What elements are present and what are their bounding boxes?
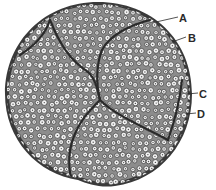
axon — [36, 4, 40, 8]
axon — [22, 179, 27, 184]
axon-core — [9, 19, 10, 20]
axon-core — [37, 154, 38, 155]
axon-core — [129, 56, 130, 57]
axon-core — [118, 141, 119, 142]
axon-core — [85, 154, 86, 155]
axon-core — [61, 148, 62, 149]
axon-core — [190, 116, 191, 117]
axon-core — [139, 17, 140, 18]
axon-core — [190, 12, 191, 13]
axon-core — [80, 11, 81, 12]
axon — [7, 36, 12, 41]
axon-core — [52, 180, 53, 181]
axon — [7, 145, 12, 150]
axon-core — [141, 103, 142, 104]
axon-core — [58, 50, 59, 51]
axon-core — [67, 18, 68, 19]
axon-core — [108, 136, 109, 137]
axon-core — [44, 102, 45, 103]
axon-core — [52, 154, 53, 155]
axon-core — [125, 175, 126, 176]
axon-core — [143, 109, 144, 110]
axon-core — [37, 128, 38, 129]
axon — [179, 29, 184, 34]
axon — [180, 160, 184, 164]
axon-core — [83, 162, 84, 163]
axon-core — [80, 18, 81, 19]
axon-core — [21, 91, 22, 92]
axon-core — [142, 5, 143, 6]
axon-core — [12, 76, 13, 77]
axon-core — [175, 32, 176, 33]
axon — [24, 159, 28, 163]
axon-core — [174, 56, 175, 57]
axon-core — [81, 117, 82, 118]
axon-core — [104, 130, 105, 131]
axon-core — [144, 11, 145, 12]
axon-core — [86, 123, 87, 124]
axon-core — [111, 18, 112, 19]
axon-core — [32, 24, 33, 25]
axon-core — [12, 110, 13, 111]
axon-core — [44, 57, 45, 58]
axon-core — [105, 123, 106, 124]
axon — [4, 29, 9, 34]
axon-core — [78, 84, 79, 85]
axon-core — [16, 116, 17, 117]
axon-core — [120, 64, 121, 65]
axon-core — [132, 18, 133, 19]
axon-core — [113, 71, 114, 72]
axon — [182, 172, 186, 176]
axon-core — [19, 77, 20, 78]
axon-core — [117, 102, 118, 103]
axon — [173, 153, 179, 159]
axon-core — [94, 167, 95, 168]
axon-core — [137, 115, 138, 116]
axon-core — [116, 52, 117, 53]
axon-core — [156, 102, 157, 103]
axon-core — [57, 110, 58, 111]
axon — [12, 147, 17, 152]
axon-core — [106, 142, 107, 143]
axon-core — [77, 58, 78, 59]
axon-core — [180, 182, 181, 183]
axon-core — [107, 149, 108, 150]
axon — [164, 180, 170, 186]
axon — [2, 134, 8, 140]
axon-core — [128, 30, 129, 31]
axon-core — [151, 168, 152, 169]
axon-core — [170, 174, 171, 175]
axon-core — [123, 162, 124, 163]
axon-core — [20, 122, 21, 123]
axon-core — [90, 102, 91, 103]
axon-core — [128, 161, 129, 162]
axon-core — [139, 143, 140, 144]
axon — [168, 161, 172, 165]
axon-core — [177, 168, 178, 169]
axon-core — [26, 25, 27, 26]
axon-core — [21, 17, 22, 18]
axon-core — [170, 13, 171, 14]
axon-core — [181, 77, 182, 78]
axon-core — [58, 25, 59, 26]
axon-core — [180, 128, 181, 129]
axon-core — [79, 169, 80, 170]
axon-core — [39, 110, 40, 111]
axon-core — [118, 12, 119, 13]
axon-core — [187, 134, 188, 135]
axon-core — [25, 135, 26, 136]
axon-core — [34, 37, 35, 38]
axon-core — [54, 63, 55, 64]
axon-core — [118, 18, 119, 19]
axon-core — [163, 91, 164, 92]
axon-core — [167, 129, 168, 130]
axon-core — [35, 168, 36, 169]
axon-core — [19, 51, 20, 52]
axon-core — [147, 103, 148, 104]
axon-core — [175, 128, 176, 129]
axon-core — [80, 175, 81, 176]
axon — [149, 173, 155, 179]
axon-core — [99, 65, 100, 66]
axon — [10, 23, 15, 28]
axon — [23, 29, 28, 34]
